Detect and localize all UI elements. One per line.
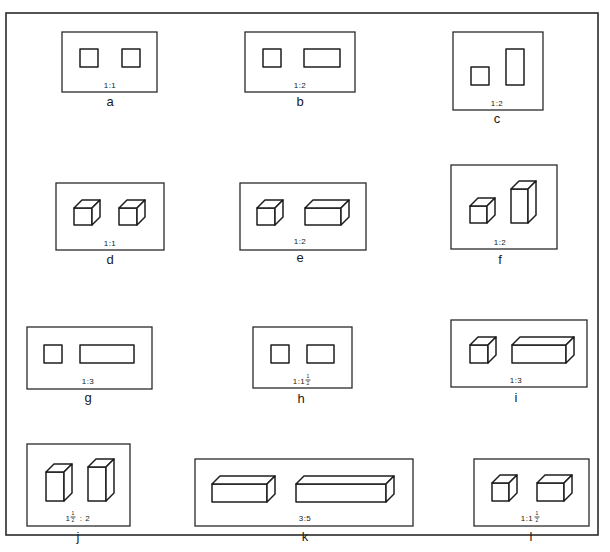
panel-b: 1:2 b <box>245 32 355 109</box>
panel-a: 1:1 a <box>62 32 157 109</box>
panel-g: 1:3 g <box>27 327 152 405</box>
tall-box-shape <box>88 459 114 501</box>
panel-letter: a <box>106 94 114 109</box>
svg-text:1:1: 1:1 <box>521 514 534 523</box>
panel-letter: d <box>106 252 113 267</box>
panel-j: 1 1 2 : 2 j <box>27 444 130 544</box>
cube-shape <box>257 200 283 225</box>
panel-letter: i <box>515 390 518 405</box>
square-shape <box>80 49 98 67</box>
square-shape <box>122 49 140 67</box>
rectangle-shape <box>304 49 340 67</box>
ratio-label: 1:2 <box>494 238 507 247</box>
box-shape <box>46 464 72 501</box>
cube-shape <box>492 475 517 501</box>
square-shape <box>471 67 489 85</box>
box-shape <box>212 476 275 502</box>
proportion-diagram: 1:1 a 1:2 b 1:2 c 1:1 d <box>0 0 610 552</box>
panel-letter: e <box>296 250 303 265</box>
ratio-label: 1:2 <box>294 237 307 246</box>
ratio-label: 3:5 <box>299 514 312 523</box>
panel-k: 3:5 k <box>195 459 413 544</box>
svg-text:2: 2 <box>536 517 539 523</box>
long-box-shape <box>512 337 574 363</box>
rectangle-shape <box>506 49 524 85</box>
box-shape <box>305 200 349 225</box>
svg-text:1: 1 <box>536 510 539 516</box>
panel-h: 1:1 1 2 h <box>253 327 352 406</box>
panel-e: 1:2 e <box>240 183 366 265</box>
square-shape <box>271 345 289 363</box>
panel-i: 1:3 i <box>451 320 587 405</box>
box-shape <box>537 475 572 501</box>
panel-letter: g <box>84 390 91 405</box>
cube-shape <box>119 200 145 225</box>
svg-text:1: 1 <box>307 373 310 379</box>
panel-letter: h <box>297 391 304 406</box>
long-box-shape <box>296 476 394 502</box>
panel-letter: c <box>494 111 501 126</box>
svg-text:1: 1 <box>72 510 75 516</box>
svg-text:2: 2 <box>72 517 75 523</box>
ratio-label: 1:1 <box>104 81 117 90</box>
ratio-label: 1:2 <box>294 81 307 90</box>
panel-letter: k <box>302 529 309 544</box>
cube-shape <box>470 198 495 223</box>
panel-d: 1:1 d <box>56 183 164 267</box>
panel-frame <box>451 165 557 249</box>
panel-letter: j <box>76 529 80 544</box>
svg-text:2: 2 <box>307 380 310 386</box>
cube-shape <box>74 200 100 225</box>
rectangle-shape <box>80 345 134 363</box>
ratio-label: 1:3 <box>82 377 95 386</box>
square-shape <box>263 49 281 67</box>
square-shape <box>44 345 62 363</box>
svg-text:1:1: 1:1 <box>293 377 306 386</box>
panel-letter: l <box>530 529 533 544</box>
panel-f: 1:2 f <box>451 165 557 267</box>
tall-box-shape <box>511 181 536 223</box>
svg-text:: 2: : 2 <box>80 514 90 523</box>
cube-shape <box>470 337 496 363</box>
ratio-label: 1:1 <box>104 239 117 248</box>
ratio-label: 1:2 <box>491 99 504 108</box>
svg-text:1: 1 <box>66 514 71 523</box>
panel-c: 1:2 c <box>453 32 543 126</box>
panel-letter: b <box>296 94 303 109</box>
ratio-label: 1:3 <box>510 376 523 385</box>
panel-l: 1:1 1 2 l <box>474 459 589 544</box>
panel-letter: f <box>498 252 502 267</box>
rectangle-shape <box>307 345 334 363</box>
